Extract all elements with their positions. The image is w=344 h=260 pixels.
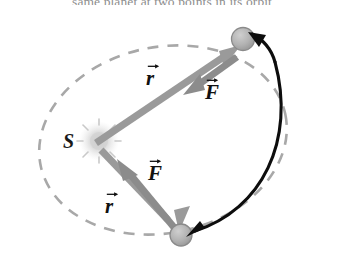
label-F-upper: F <box>205 82 219 103</box>
label-r-lower: r <box>105 196 113 217</box>
label-r-upper-text: r <box>146 66 154 90</box>
vector-arrow-icon <box>147 62 160 69</box>
vector-arrow-icon <box>149 157 162 164</box>
label-F-upper-text: F <box>205 80 219 104</box>
label-r-lower-text: r <box>105 194 113 218</box>
label-r-upper: r <box>146 68 154 89</box>
vector-arrow-icon <box>106 190 119 197</box>
label-F-lower-text: F <box>148 161 162 185</box>
label-F-lower: F <box>148 163 162 184</box>
diagram-canvas <box>0 0 344 260</box>
planet-upper <box>232 28 255 51</box>
vector-F-lower <box>117 159 177 231</box>
vector-r-upper <box>96 45 241 143</box>
vector-arrow-icon <box>206 76 219 83</box>
planet-orbit-figure: same planet at two points in its orbit <box>0 0 344 260</box>
sun-label: S <box>63 130 74 153</box>
